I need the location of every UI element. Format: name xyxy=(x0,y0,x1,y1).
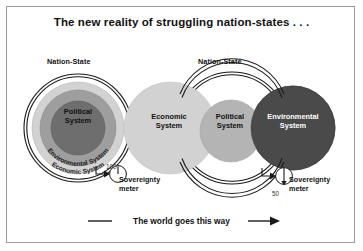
political-system-label-left-line1: Political xyxy=(56,107,100,116)
sovereignty-meter-label-right-line2: meter xyxy=(289,185,330,194)
political-system-label-left: Political System xyxy=(56,107,100,125)
sovereignty-meter-label-right: Sovereignty meter xyxy=(289,176,330,193)
political-system-label-right: Political System xyxy=(206,112,254,130)
nation-state-label-left: Nation-State xyxy=(47,57,91,66)
economic-system-label-right: Economic System xyxy=(141,112,197,130)
environmental-system-label-right-line2: System xyxy=(258,121,328,130)
economic-system-label-right-line1: Economic xyxy=(141,112,197,121)
sovereignty-meter-value-left: 100 xyxy=(106,163,117,170)
political-system-label-left-line2: System xyxy=(56,116,100,125)
economic-system-label-right-line2: System xyxy=(141,121,197,130)
environmental-system-label-right: Environmental System xyxy=(258,112,328,130)
environmental-system-label-right-line1: Environmental xyxy=(258,112,328,121)
sovereignty-meter-value-right: 50 xyxy=(272,190,279,197)
nation-state-label-right: Nation-State xyxy=(198,57,242,66)
political-system-label-right-line1: Political xyxy=(206,112,254,121)
sovereignty-meter-label-left-line2: meter xyxy=(119,185,160,194)
political-system-label-right-line2: System xyxy=(206,121,254,130)
bottom-caption: The world goes this way xyxy=(0,216,363,226)
sovereignty-meter-label-left: Sovereignty meter xyxy=(119,176,160,193)
